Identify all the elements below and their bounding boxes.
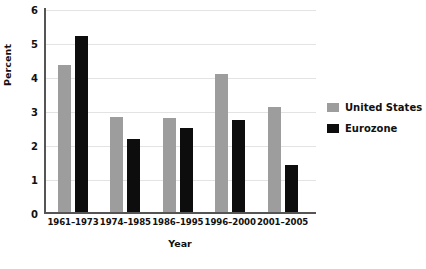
y-axis-line [44, 8, 46, 214]
bar-group [155, 8, 201, 212]
y-tick-label: 6 [14, 4, 38, 15]
x-tick-label: 2001–2005 [255, 217, 311, 227]
bar-eurozone [285, 165, 298, 213]
y-tick-label: 5 [14, 38, 38, 49]
bar-united-states [268, 107, 281, 212]
y-tick-label: 3 [14, 106, 38, 117]
bar-eurozone [127, 139, 140, 212]
bar-eurozone [232, 120, 245, 212]
y-tick-label: 1 [14, 174, 38, 185]
x-axis-title: Year [44, 238, 316, 249]
bar-united-states [58, 65, 71, 213]
legend-swatch-icon [327, 124, 339, 133]
bar-eurozone [75, 36, 88, 213]
legend-entry: Eurozone [327, 120, 422, 137]
bar-group [102, 8, 148, 212]
legend-label: Eurozone [345, 123, 397, 134]
x-tick-label: 1961–1973 [45, 217, 101, 227]
bar-eurozone [180, 128, 193, 212]
bar-group [260, 8, 306, 212]
legend-label: United States [345, 102, 422, 113]
y-axis-tick-labels: 0123456 [12, 8, 38, 214]
bar-united-states [215, 74, 228, 213]
y-tick-label: 2 [14, 140, 38, 151]
legend-swatch-icon [327, 103, 339, 112]
x-tick-label: 1974–1985 [97, 217, 153, 227]
bar-united-states [163, 118, 176, 213]
x-tick-label: 1986–1995 [150, 217, 206, 227]
x-axis-line [44, 212, 316, 214]
x-tick-label: 1996–2000 [202, 217, 258, 227]
plot-area [44, 8, 316, 214]
legend-entry: United States [327, 99, 422, 116]
y-tick-label: 0 [14, 208, 38, 219]
legend: United StatesEurozone [327, 99, 422, 141]
bar-group [50, 8, 96, 212]
x-axis-tick-labels: 1961–19731974–19851986–19951996–20002001… [44, 217, 316, 231]
bar-group [207, 8, 253, 212]
bar-united-states [110, 117, 123, 212]
y-tick-label: 4 [14, 72, 38, 83]
bar-chart: Percent 0123456 1961–19731974–19851986–1… [0, 0, 426, 269]
